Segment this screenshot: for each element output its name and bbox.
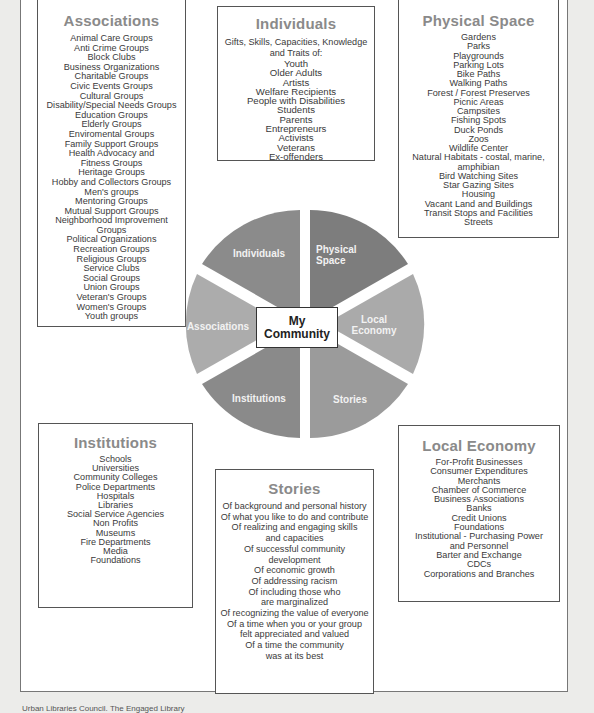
physical-space-list: GardensParksPlaygroundsParking LotsBike … — [399, 33, 558, 227]
physical-space-title: Physical Space — [399, 0, 558, 33]
label-stories: Stories — [320, 394, 380, 405]
list-item: Of a time the community — [216, 640, 373, 651]
list-item: Of what you like to do and contribute — [216, 512, 373, 523]
list-item: Ex-offenders — [218, 152, 374, 161]
individuals-intro-line1: Gifts, Skills, Capacities, Knowledge — [218, 37, 374, 48]
label-local-economy: Local Economy — [344, 314, 404, 336]
label-physical-space: Physical Space — [312, 244, 376, 266]
list-item: Of recognizing the value of everyone — [216, 608, 373, 619]
stories-title: Stories — [216, 470, 373, 501]
label-individuals: Individuals — [224, 248, 294, 259]
list-item: Of realizing and engaging skills — [216, 522, 373, 533]
list-item: felt appreciated and valued — [216, 629, 373, 640]
institutions-list: SchoolsUniversitiesCommunity CollegesPol… — [39, 455, 192, 565]
list-item: Of background and personal history — [216, 501, 373, 512]
list-item: Of economic growth — [216, 565, 373, 576]
list-item: Of a time when you or your group — [216, 619, 373, 630]
list-item: was at its best — [216, 651, 373, 662]
list-item: and capacities — [216, 533, 373, 544]
list-item: Of addressing racism — [216, 576, 373, 587]
associations-list: Animal Care GroupsAnti Crime GroupsBlock… — [38, 34, 185, 322]
label-institutions: Institutions — [224, 393, 294, 404]
local-economy-title: Local Economy — [399, 426, 559, 458]
individuals-title: Individuals — [218, 7, 374, 37]
list-item: are marginalized — [216, 597, 373, 608]
my-community-center: My Community — [256, 307, 338, 348]
associations-box: Associations Animal Care GroupsAnti Crim… — [37, 0, 186, 327]
institutions-box: Institutions SchoolsUniversitiesCommunit… — [38, 423, 193, 608]
individuals-box: Individuals Gifts, Skills, Capacities, K… — [217, 6, 375, 161]
list-item: development — [216, 555, 373, 566]
stories-box: Stories Of background and personal histo… — [215, 469, 374, 694]
list-item: Youth groups — [38, 312, 185, 322]
list-item: Corporations and Branches — [399, 570, 559, 579]
individuals-list: YouthOlder AdultsArtistsWelfare Recipien… — [218, 59, 374, 161]
institutions-title: Institutions — [39, 424, 192, 455]
source-caption: Urban Libraries Council. The Engaged Lib… — [22, 704, 185, 713]
stories-list: Of background and personal historyOf wha… — [216, 501, 373, 662]
list-item: Foundations — [39, 556, 192, 565]
associations-title: Associations — [38, 0, 185, 34]
community-wheel: Individuals Physical Space Local Economy… — [180, 200, 430, 450]
list-item: Of including those who — [216, 587, 373, 598]
label-associations: Associations — [182, 321, 254, 332]
local-economy-list: For-Profit BusinessesConsumer Expenditur… — [399, 458, 559, 579]
list-item: Of successful community — [216, 544, 373, 555]
local-economy-box: Local Economy For-Profit BusinessesConsu… — [398, 425, 560, 602]
